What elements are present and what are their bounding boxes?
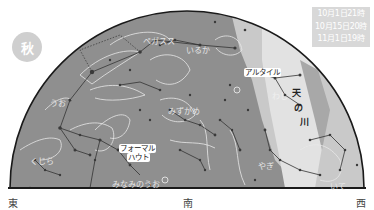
direction-east: 東 (8, 195, 18, 210)
observation-time: 10月1日21時 (314, 8, 368, 21)
constellation-label-cetus: くじら (30, 155, 54, 166)
season-badge: 秋 (12, 32, 42, 62)
observation-time: 11月1日19時 (314, 33, 368, 46)
constellation-label-capricornus: やぎ (258, 160, 274, 171)
observation-time-box: 10月1日21時 10月15日20時 11月1日19時 (312, 7, 370, 47)
star-label-fomalhaut: フォーマル (119, 144, 156, 153)
constellation-label-pegasus: ペガスス (143, 35, 175, 46)
star-label-fomalhaut-2: ハウト (127, 153, 150, 162)
constellation-label-aquila: わし (272, 90, 288, 101)
constellation-label-aquarius: みずがめ (168, 105, 200, 116)
observation-time: 10月15日20時 (314, 21, 368, 34)
constellation-label-pisces: うお (50, 97, 66, 108)
milky-way-label: 川 (300, 115, 309, 128)
milky-way-label: 天 (292, 86, 301, 99)
constellation-label-piscis-austrinus: みなみのうお (112, 178, 160, 189)
star-label-altair: アルタイル (244, 68, 281, 77)
direction-south: 南 (183, 195, 193, 210)
direction-west: 西 (356, 195, 366, 210)
constellation-label-sagittarius: いて (330, 180, 346, 191)
constellation-label-delphinus: いるか (186, 44, 210, 55)
milky-way-label: の (294, 101, 303, 114)
